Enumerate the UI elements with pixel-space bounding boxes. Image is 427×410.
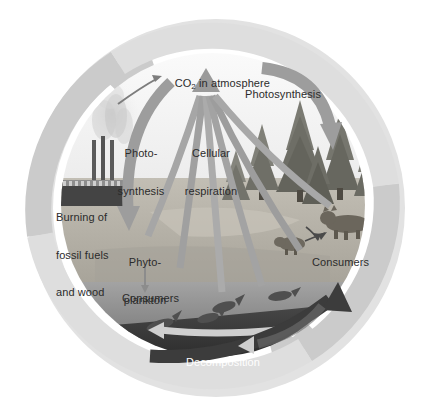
label-phytoplankton: Phyto- plankton — [116, 231, 174, 331]
label-burning-fossil-fuels: Burning of fossil fuels and wood — [56, 186, 109, 324]
label-consumers-water: Consumers — [122, 292, 179, 305]
label-decomposition: Decomposition — [186, 356, 260, 369]
label-photosynthesis-land: Photosynthesis — [245, 88, 321, 101]
smokestack-1 — [92, 140, 96, 182]
label-consumers-land: Consumers — [312, 256, 369, 269]
smokestack-2 — [101, 136, 105, 182]
label-photosynthesis-ocean: Photo- synthesis — [112, 122, 170, 222]
label-cellular-respiration: Cellular respiration — [178, 122, 244, 222]
carbon-cycle-figure: CO2 in atmosphere Photosynthesis Photo- … — [0, 0, 427, 410]
